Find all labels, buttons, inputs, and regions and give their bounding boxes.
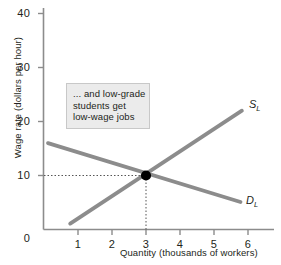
y-tick-label-0: 0 [8,232,30,244]
annotation-line-3: low-wage jobs [73,111,144,123]
demand-label-letter: D [246,194,254,206]
supply-curve-label: SL [249,98,261,113]
annotation-line-2: students get [73,100,144,112]
demand-curve-label: DL [246,194,258,209]
equilibrium-point-marker [141,170,151,180]
chart-plot-area [0,0,281,265]
y-tick-label-40: 40 [8,7,30,19]
annotation-box: ... and low-grade students get low-wage … [66,83,150,129]
annotation-line-1: ... and low-grade [73,88,144,100]
x-tick-label-1: 1 [71,238,85,250]
demand-label-subscript: L [254,200,258,209]
supply-label-subscript: L [256,104,260,113]
x-axis-title: Quantity (thousands of workers) [120,247,258,258]
y-axis-title: Wage rate (dollars per hour) [12,23,23,173]
x-tick-label-2: 2 [105,238,119,250]
wage-rate-quantity-chart: 40 30 20 10 0 1 2 3 4 5 6 Wage rate (dol… [0,0,281,265]
